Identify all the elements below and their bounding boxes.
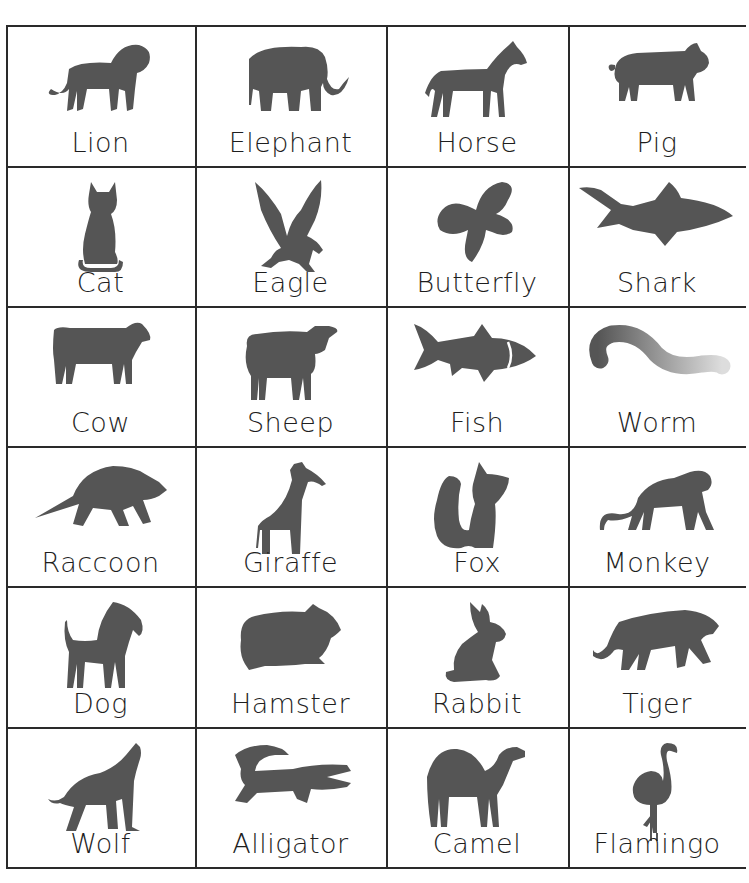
card-cow: Cow xyxy=(6,306,195,446)
eagle-icon xyxy=(251,180,331,278)
card-label: Horse xyxy=(386,127,568,158)
card-raccoon: Raccoon xyxy=(6,446,195,586)
card-label: Pig xyxy=(568,127,746,158)
grid-line xyxy=(6,867,746,869)
card-rabbit: Rabbit xyxy=(386,586,568,727)
card-label: Elephant xyxy=(195,127,386,158)
camel-icon xyxy=(425,741,529,831)
card-camel: Camel xyxy=(386,727,568,867)
animal-card-grid: Lion Elephant Horse Pig Cat Eagle Butter… xyxy=(6,25,746,868)
card-label: Raccoon xyxy=(6,547,195,578)
card-fox: Fox xyxy=(386,446,568,586)
card-shark: Shark xyxy=(568,166,746,306)
card-label: Fox xyxy=(386,547,568,578)
card-label: Monkey xyxy=(568,547,746,578)
card-label: Butterfly xyxy=(386,267,568,298)
card-label: Rabbit xyxy=(386,688,568,719)
raccoon-icon xyxy=(33,460,169,530)
cow-icon xyxy=(46,320,156,390)
card-eagle: Eagle xyxy=(195,166,386,306)
sheep-icon xyxy=(241,320,341,402)
card-butterfly: Butterfly xyxy=(386,166,568,306)
card-label: Shark xyxy=(568,267,746,298)
pig-icon xyxy=(597,39,717,109)
card-alligator: Alligator xyxy=(195,727,386,867)
card-label: Sheep xyxy=(195,407,386,438)
card-lion: Lion xyxy=(6,25,195,166)
worm-icon xyxy=(582,320,732,390)
tiger-icon xyxy=(589,600,725,676)
card-label: Flamingo xyxy=(568,828,746,859)
horse-icon xyxy=(417,39,537,123)
card-hamster: Hamster xyxy=(195,586,386,727)
fish-icon xyxy=(412,320,542,384)
card-label: Lion xyxy=(6,127,195,158)
rabbit-icon xyxy=(442,600,512,688)
shark-icon xyxy=(577,180,737,252)
card-label: Eagle xyxy=(195,267,386,298)
card-label: Cow xyxy=(6,407,195,438)
dog-icon xyxy=(55,600,147,694)
card-sheep: Sheep xyxy=(195,306,386,446)
card-label: Dog xyxy=(6,688,195,719)
card-label: Alligator xyxy=(195,828,386,859)
card-wolf: Wolf xyxy=(6,727,195,867)
alligator-icon xyxy=(227,741,355,815)
card-dog: Dog xyxy=(6,586,195,727)
card-label: Fish xyxy=(386,407,568,438)
card-label: Cat xyxy=(6,267,195,298)
card-label: Worm xyxy=(568,407,746,438)
card-label: Hamster xyxy=(195,688,386,719)
cat-icon xyxy=(71,180,131,276)
card-cat: Cat xyxy=(6,166,195,306)
card-worm: Worm xyxy=(568,306,746,446)
wolf-icon xyxy=(46,741,156,837)
hamster-icon xyxy=(235,600,347,676)
fox-icon xyxy=(429,460,525,552)
card-horse: Horse xyxy=(386,25,568,166)
elephant-icon xyxy=(231,39,351,119)
lion-icon xyxy=(41,39,161,119)
card-tiger: Tiger xyxy=(568,586,746,727)
giraffe-icon xyxy=(246,460,336,558)
card-label: Wolf xyxy=(6,828,195,859)
card-pig: Pig xyxy=(568,25,746,166)
monkey-icon xyxy=(594,460,720,536)
card-fish: Fish xyxy=(386,306,568,446)
card-monkey: Monkey xyxy=(568,446,746,586)
card-elephant: Elephant xyxy=(195,25,386,166)
card-label: Tiger xyxy=(568,688,746,719)
card-label: Giraffe xyxy=(195,547,386,578)
card-label: Camel xyxy=(386,828,568,859)
butterfly-icon xyxy=(432,180,522,266)
card-giraffe: Giraffe xyxy=(195,446,386,586)
card-flamingo: Flamingo xyxy=(568,727,746,867)
